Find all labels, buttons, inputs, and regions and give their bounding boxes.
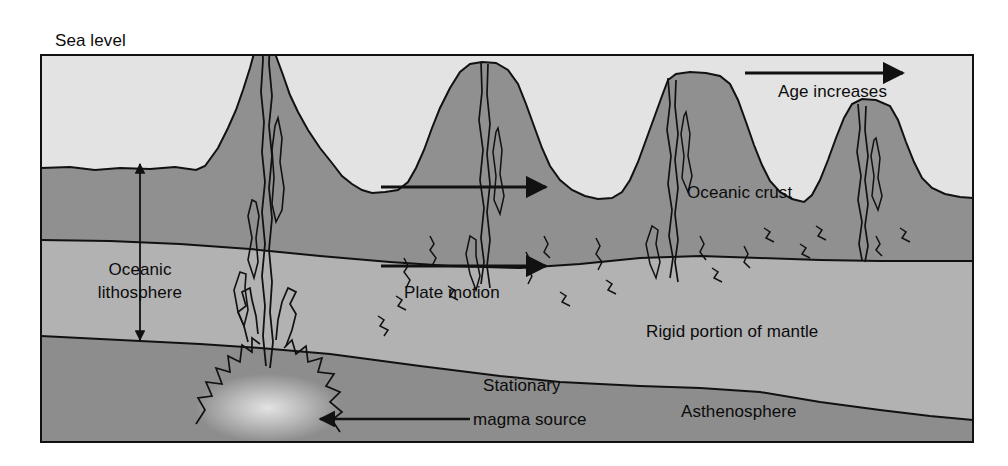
asthenosphere-label: Asthenosphere (681, 402, 797, 421)
rigid-portion-of-mantle-label: Rigid portion of mantle (646, 322, 818, 341)
sea-level-label: Sea level (55, 31, 126, 50)
stationary-magma-source-label-line2: magma source (473, 410, 587, 429)
age-increases-label: Age increases (778, 82, 887, 101)
oceanic-lithosphere-label-line1: Oceanic (108, 260, 171, 279)
plate-motion-label: Plate motion (404, 283, 500, 302)
oceanic-lithosphere-label-line2: lithosphere (98, 283, 182, 302)
stationary-magma-source-label-line1: Stationary (483, 376, 561, 395)
diagram-root: Sea level Age increases Oceanic crust Oc… (0, 0, 1008, 466)
hotspot-cross-section-svg: Sea level Age increases Oceanic crust Oc… (0, 0, 1008, 466)
oceanic-crust-label: Oceanic crust (687, 183, 792, 202)
